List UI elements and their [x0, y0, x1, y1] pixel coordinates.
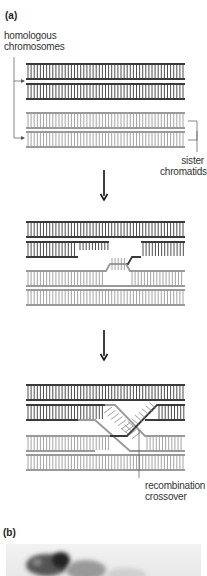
stage2-homolog-1-chromatid-1-base-pairs	[28, 223, 183, 236]
stage2-displaced-strand	[26, 264, 185, 271]
stage2-broken-base-pairs-left	[28, 243, 75, 256]
homologous-pointer-2	[21, 136, 25, 140]
sister-bracket	[188, 121, 197, 140]
stage3-dark-bp-left	[28, 406, 102, 419]
stage3-light-bp-right	[147, 437, 181, 450]
stage3-homolog-2-chromatid-2-base-pairs	[28, 456, 183, 469]
stage2-homolog-2-bp-left	[28, 272, 102, 285]
stage2-single-strand-overhang	[80, 243, 108, 250]
stage3-light-bp-left	[28, 437, 109, 450]
electron-micrograph	[6, 544, 201, 576]
stage2-homolog-2-chromatid-2-base-pairs	[28, 291, 183, 304]
homolog-2-chromatid-2-base-pairs	[28, 133, 183, 146]
recombination-diagram	[0, 0, 207, 576]
homolog-1-chromatid-1-base-pairs	[28, 65, 183, 78]
stage2-invading-strand	[112, 257, 141, 264]
homolog-1-chromatid-2-base-pairs	[28, 85, 183, 98]
homolog-2-chromatid-1-base-pairs	[28, 114, 183, 127]
stage3-homolog-1-chromatid-1-base-pairs	[28, 386, 183, 399]
stage2-broken-base-pairs-right	[143, 243, 183, 256]
stage3-dark-bp-right	[159, 406, 184, 419]
stage2-homolog-2-bp-right	[132, 272, 182, 285]
homologous-bracket	[14, 57, 24, 138]
homologous-pointer-1	[21, 79, 25, 83]
